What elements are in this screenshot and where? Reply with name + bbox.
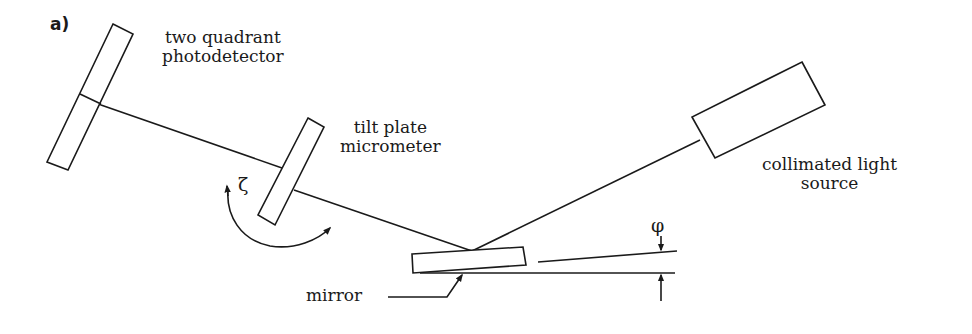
panel-label: a) bbox=[50, 14, 69, 34]
photodetector bbox=[47, 24, 133, 170]
tilt-plate-label: tilt plate micrometer bbox=[340, 118, 441, 156]
incident-beam bbox=[472, 140, 700, 251]
tilt-plate bbox=[258, 118, 324, 225]
mirror bbox=[412, 247, 526, 273]
displaced-beam bbox=[101, 105, 282, 168]
photodetector-label: two quadrant photodetector bbox=[162, 28, 284, 66]
light-source-label: collimated light source bbox=[762, 155, 897, 193]
zeta-symbol: ζ bbox=[238, 173, 248, 195]
reflected-beam bbox=[294, 190, 472, 251]
light-source bbox=[692, 62, 825, 158]
phi-symbol: φ bbox=[651, 214, 664, 236]
mirror-leader-line bbox=[388, 275, 462, 297]
mirror-label: mirror bbox=[306, 286, 362, 305]
tilted-reference-line bbox=[538, 251, 677, 262]
